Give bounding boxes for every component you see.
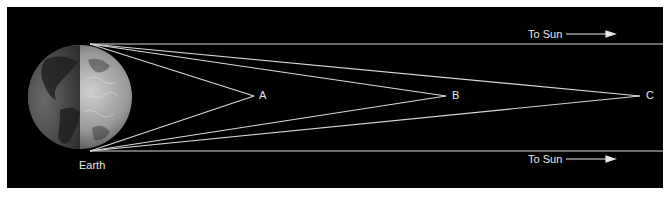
to-sun-label-bottom: To Sun <box>528 153 562 165</box>
point-label-c: C <box>646 89 654 101</box>
line-to-B-top <box>90 44 446 96</box>
arrow-right-icon <box>606 156 615 162</box>
point-label-a: A <box>259 89 266 101</box>
arrows <box>566 31 615 162</box>
point-label-b: B <box>452 89 459 101</box>
earth-label: Earth <box>79 159 105 171</box>
line-to-B-bottom <box>90 96 446 151</box>
sight-lines <box>90 44 663 151</box>
to-sun-label-top: To Sun <box>528 28 562 40</box>
arrow-right-icon <box>606 31 615 37</box>
